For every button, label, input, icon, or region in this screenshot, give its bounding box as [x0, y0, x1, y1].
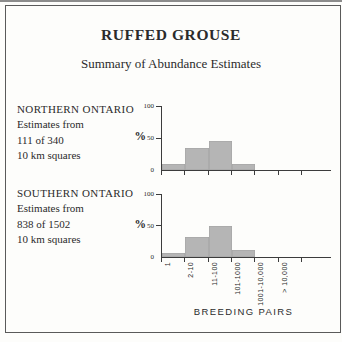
y-tick-100 [156, 194, 162, 195]
x-axis-title: BREEDING PAIRS [161, 306, 326, 317]
x-tick-label: > 10,000 [281, 262, 288, 293]
x-tick-label: 11-100 [211, 262, 218, 286]
percent-axis-label: % [135, 218, 147, 230]
x-tick-label: 1001-10,000 [257, 262, 264, 306]
x-tick-label: 2-10 [187, 262, 194, 278]
squares-unit-line: 10 km squares [17, 232, 162, 247]
x-axis-tick [254, 171, 255, 175]
y-tick-label-100: 100 [134, 190, 154, 198]
x-axis-tick [254, 258, 255, 262]
y-tick-50 [156, 225, 162, 226]
x-axis-tick [161, 171, 162, 175]
histogram-bar [185, 148, 208, 170]
y-tick-label-100: 100 [134, 102, 154, 110]
x-axis-tick [301, 258, 302, 262]
x-axis-line [161, 257, 331, 258]
y-tick-label-0: 0 [134, 253, 154, 261]
estimates-from-line: Estimates from [17, 201, 162, 216]
y-tick-50 [156, 138, 162, 139]
histogram-bar [162, 164, 185, 170]
y-tick-label-0: 0 [134, 166, 154, 174]
x-axis-tick [278, 258, 279, 262]
page-edge-rule [0, 0, 342, 2]
southern-histogram: 100 50 0 % 12-1011-100101-10001001-10,00… [161, 194, 302, 257]
species-title: RUFFED GROUSE [0, 26, 342, 44]
x-axis-line [161, 170, 331, 171]
histogram-bar [209, 141, 232, 170]
histogram-bar [232, 250, 255, 257]
x-tick-label: 101-1000 [234, 262, 241, 295]
histogram-bar [232, 164, 255, 170]
x-axis-tick [208, 171, 209, 175]
histogram-bar [185, 237, 208, 257]
x-axis-tick [184, 171, 185, 175]
x-axis-tick [301, 171, 302, 175]
histogram-bar [162, 253, 185, 257]
y-tick-100 [156, 106, 162, 107]
x-tick-label: 1 [164, 262, 171, 266]
x-axis-tick [231, 171, 232, 175]
histogram-bar [209, 226, 232, 258]
atlas-abundance-panel: RUFFED GROUSE Summary of Abundance Estim… [0, 0, 342, 342]
squares-unit-line: 10 km squares [17, 148, 162, 163]
panel-subtitle: Summary of Abundance Estimates [0, 56, 342, 72]
percent-axis-label: % [135, 130, 147, 142]
x-axis-tick [208, 258, 209, 262]
x-axis-tick [184, 258, 185, 262]
x-axis-tick [278, 171, 279, 175]
x-axis-tick [231, 258, 232, 262]
x-axis-tick [161, 258, 162, 262]
northern-histogram: 100 50 0 % [161, 106, 302, 170]
